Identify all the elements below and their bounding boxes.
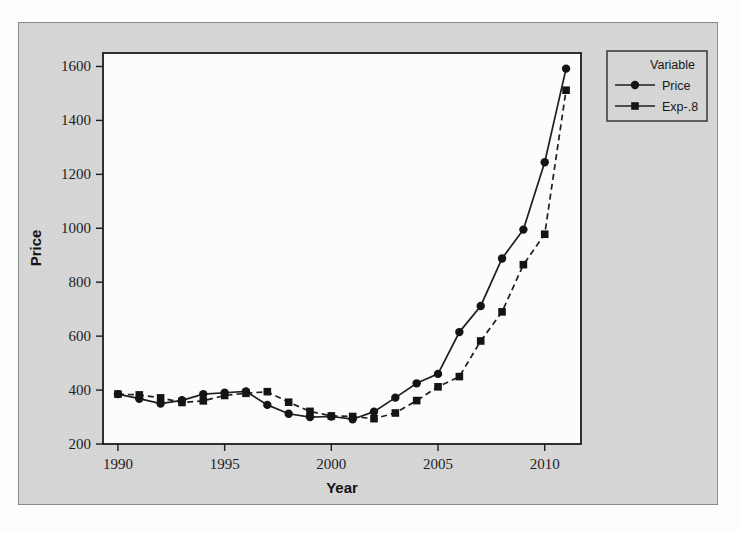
x-tick-label: 2005 <box>423 456 453 472</box>
x-tick-label: 2010 <box>530 456 560 472</box>
data-point-exp <box>413 397 421 405</box>
data-point-price <box>477 302 485 310</box>
data-point-exp <box>157 394 165 402</box>
data-point-exp <box>541 230 549 238</box>
data-point-exp <box>221 392 229 400</box>
legend-marker-exp <box>631 102 639 110</box>
legend-label: Price <box>662 79 691 93</box>
x-tick-label: 1995 <box>210 456 240 472</box>
data-point-price <box>541 158 549 166</box>
data-point-price <box>284 410 292 418</box>
data-point-exp <box>306 408 314 416</box>
data-point-price <box>412 379 420 387</box>
legend-marker-price <box>631 81 639 89</box>
figure-panel: 2004006008001000120014001600 19901995200… <box>18 22 718 505</box>
y-tick-label: 1000 <box>61 220 91 236</box>
data-point-price <box>199 390 207 398</box>
y-tick-label: 200 <box>69 436 92 452</box>
data-point-exp <box>456 373 464 381</box>
data-point-exp <box>242 390 250 398</box>
y-tick-label: 1200 <box>61 166 91 182</box>
data-point-price <box>434 370 442 378</box>
data-point-exp <box>498 308 506 316</box>
data-point-exp <box>178 399 186 407</box>
data-point-exp <box>349 413 357 421</box>
data-point-exp <box>199 397 207 405</box>
legend-title: Variable <box>650 58 695 72</box>
data-point-exp <box>114 390 122 398</box>
data-point-price <box>519 225 527 233</box>
data-point-exp <box>264 388 272 396</box>
data-point-price <box>391 393 399 401</box>
data-point-price <box>455 328 463 336</box>
y-tick-label: 800 <box>69 274 92 290</box>
y-axis-title: Price <box>27 230 44 267</box>
legend-label: Exp-.8 <box>662 100 698 114</box>
chart-legend[interactable]: Variable PriceExp-.8 <box>607 51 707 121</box>
data-point-price <box>370 407 378 415</box>
data-point-exp <box>477 337 485 345</box>
data-point-exp <box>434 383 442 391</box>
data-point-price <box>562 64 570 72</box>
data-point-exp <box>562 86 570 94</box>
data-point-exp <box>392 409 400 417</box>
x-tick-label: 1990 <box>103 456 133 472</box>
x-tick-label: 2000 <box>316 456 346 472</box>
data-point-exp <box>285 398 293 406</box>
y-axis-ticks: 2004006008001000120014001600 <box>61 58 103 452</box>
y-tick-label: 400 <box>69 382 92 398</box>
x-axis-title: Year <box>326 479 358 496</box>
data-point-price <box>498 254 506 262</box>
y-tick-label: 600 <box>69 328 92 344</box>
x-axis-ticks: 19901995200020052010 <box>103 444 560 472</box>
screenshot-root: 2004006008001000120014001600 19901995200… <box>0 0 739 533</box>
y-tick-label: 1400 <box>61 112 91 128</box>
data-point-exp <box>135 391 143 399</box>
data-point-exp <box>328 412 336 420</box>
data-point-price <box>263 401 271 409</box>
line-chart: 2004006008001000120014001600 19901995200… <box>19 23 719 506</box>
data-point-exp <box>520 261 528 269</box>
data-point-exp <box>370 415 378 423</box>
y-tick-label: 1600 <box>61 58 91 74</box>
